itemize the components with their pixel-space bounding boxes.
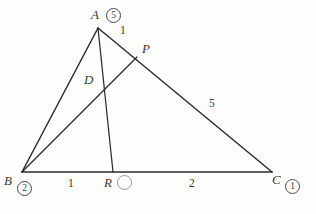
vertex-mark-b: 2 bbox=[17, 181, 32, 196]
vertex-label-c: C bbox=[272, 173, 281, 186]
vertex-mark-a: 5 bbox=[106, 8, 121, 23]
cevian-bp bbox=[22, 57, 137, 172]
vertex-mark-r bbox=[117, 175, 132, 190]
point-label-p: P bbox=[142, 42, 150, 55]
point-label-d: D bbox=[84, 73, 93, 86]
cevian-ar bbox=[98, 28, 113, 172]
vertex-mark-c: 1 bbox=[285, 179, 300, 194]
geometry-diagram: A 5 B 2 C 1 R P D 1 5 1 2 bbox=[0, 0, 316, 214]
segment-ab bbox=[22, 28, 98, 172]
vertex-label-b: B bbox=[4, 174, 12, 187]
figure-canvas bbox=[0, 0, 316, 214]
segment-ac bbox=[98, 28, 272, 172]
segment-length-ap: 1 bbox=[120, 25, 126, 37]
segment-length-pc: 5 bbox=[209, 98, 215, 110]
segment-length-rc: 2 bbox=[189, 178, 195, 190]
segment-length-br: 1 bbox=[68, 178, 74, 190]
vertex-label-a: A bbox=[91, 8, 99, 21]
point-label-r: R bbox=[104, 176, 112, 189]
